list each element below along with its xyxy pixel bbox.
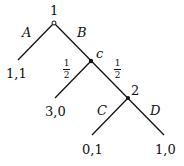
prob-right: 12 <box>114 59 121 80</box>
payoff-A: 1,1 <box>6 67 27 80</box>
payoff-C: 0,1 <box>82 143 103 156</box>
edge-label-B: B <box>77 26 87 39</box>
edge-label-C: C <box>97 104 107 117</box>
payoff-D: 1,0 <box>155 143 176 156</box>
root-player-label: 1 <box>50 4 58 17</box>
root-node <box>52 21 56 25</box>
player2-node <box>126 96 130 100</box>
prob-left: 12 <box>63 59 70 80</box>
payoff-chance-left: 3,0 <box>45 105 66 118</box>
chance-node-label: c <box>96 47 103 60</box>
edge-label-A: A <box>22 26 31 39</box>
player2-label: 2 <box>131 84 139 97</box>
chance-node <box>89 59 93 63</box>
edge-label-D: D <box>150 104 160 117</box>
